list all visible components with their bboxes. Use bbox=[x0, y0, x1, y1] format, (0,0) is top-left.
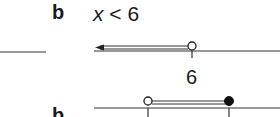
tick-label-6: 6 bbox=[186, 66, 197, 89]
number-lines-figure bbox=[0, 0, 280, 117]
open-circle-icon bbox=[188, 42, 196, 50]
arrow-left-icon bbox=[95, 45, 104, 51]
open-circle-icon bbox=[144, 97, 152, 105]
closed-circle-icon bbox=[225, 97, 234, 106]
part-label-b-second: b bbox=[52, 104, 64, 117]
